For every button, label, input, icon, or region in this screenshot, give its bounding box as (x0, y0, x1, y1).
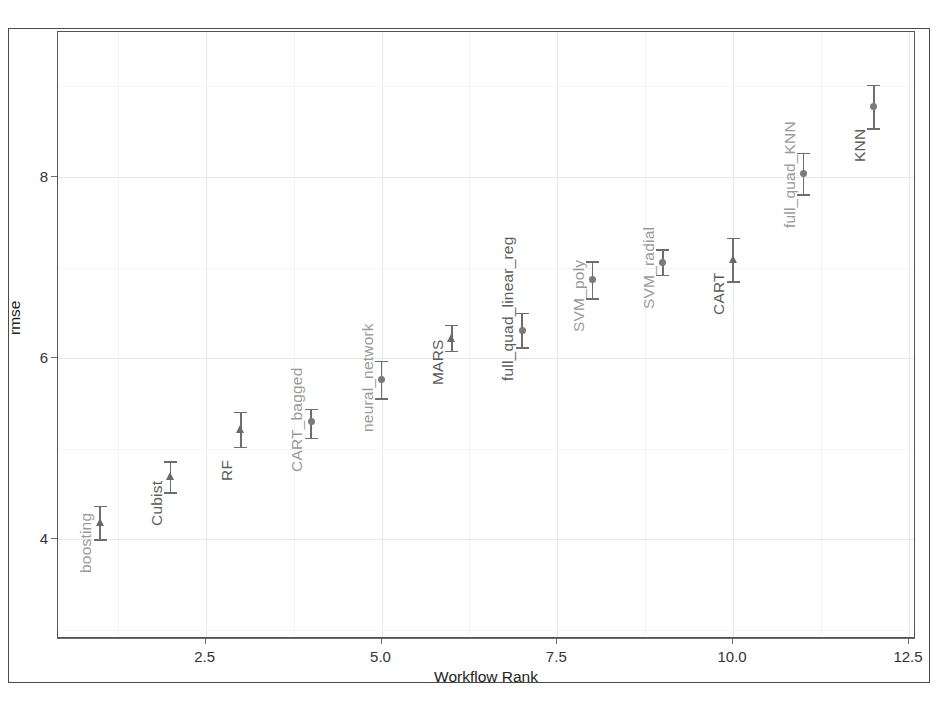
point-label: SVM_poly (570, 260, 588, 332)
y-tick (51, 538, 57, 539)
point-label: SVM_radial (640, 227, 658, 309)
point-label: full_quad_linear_reg (499, 237, 517, 381)
data-point-marker (659, 259, 666, 266)
point-label: full_quad_KNN (781, 121, 799, 228)
data-point-marker (96, 518, 104, 526)
x-tick-label: 5.0 (370, 648, 391, 665)
point-label: RF (218, 460, 236, 481)
gridline-horizontal (58, 358, 914, 359)
x-tick-label: 2.5 (194, 648, 215, 665)
gridline-vertical (733, 32, 734, 637)
point-label: boosting (77, 513, 95, 573)
gridline-vertical-minor (118, 32, 119, 637)
error-bar-cap-upper (727, 238, 740, 240)
point-label: KNN (851, 129, 869, 162)
y-tick-label: 6 (30, 349, 48, 366)
gridline-vertical (909, 32, 910, 637)
gridline-vertical-minor (645, 32, 646, 637)
error-bar-cap-upper (516, 313, 529, 315)
data-point-marker (870, 103, 877, 110)
error-bar-cap-upper (445, 325, 458, 327)
error-bar-cap-lower (94, 539, 107, 541)
x-tick (556, 638, 557, 644)
error-bar-cap-lower (516, 347, 529, 349)
error-bar-cap-upper (94, 506, 107, 508)
error-bar-cap-upper (656, 249, 669, 251)
point-label: Cubist (148, 481, 166, 526)
error-bar-cap-lower (727, 281, 740, 283)
x-tick (381, 638, 382, 644)
y-tick-label: 8 (30, 168, 48, 185)
data-point-marker (447, 334, 455, 342)
point-label: CART_bagged (288, 367, 306, 471)
gridline-vertical-minor (821, 32, 822, 637)
x-axis-line (57, 638, 915, 639)
x-tick (908, 638, 909, 644)
x-tick (732, 638, 733, 644)
gridline-vertical (206, 32, 207, 637)
error-bar-cap-lower (656, 275, 669, 277)
x-tick-label: 10.0 (717, 648, 746, 665)
data-point-marker (589, 276, 596, 283)
gridline-vertical-minor (469, 32, 470, 637)
error-bar-cap-lower (867, 128, 880, 130)
data-point-marker (519, 327, 526, 334)
point-label: MARS (429, 339, 447, 385)
error-bar-cap-upper (305, 409, 318, 411)
gridline-vertical (382, 32, 383, 637)
x-axis-title: Workflow Rank (57, 668, 915, 686)
error-bar-cap-lower (305, 438, 318, 440)
data-point-marker (800, 170, 807, 177)
x-tick-label: 7.5 (546, 648, 567, 665)
x-tick (205, 638, 206, 644)
y-tick (51, 357, 57, 358)
error-bar-cap-lower (445, 351, 458, 353)
data-point-marker (236, 425, 244, 433)
data-point-marker (308, 418, 315, 425)
x-tick-label: 12.5 (893, 648, 922, 665)
gridline-horizontal-minor (58, 449, 914, 450)
error-bar-cap-upper (867, 85, 880, 87)
gridline-horizontal (58, 539, 914, 540)
chart-figure: boostingCubistRFCART_baggedneural_networ… (0, 0, 939, 705)
point-label: CART (710, 272, 728, 315)
data-point-marker (378, 376, 385, 383)
plot-panel: boostingCubistRFCART_baggedneural_networ… (57, 31, 915, 638)
data-point-marker (729, 255, 737, 263)
error-bar-cap-lower (234, 447, 247, 449)
gridline-horizontal-minor (58, 630, 914, 631)
error-bar-cap-upper (164, 461, 177, 463)
point-label: neural_network (359, 323, 377, 432)
gridline-horizontal-minor (58, 86, 914, 87)
gridline-horizontal-minor (58, 268, 914, 269)
data-point-marker (166, 472, 174, 480)
error-bar-cap-upper (234, 412, 247, 414)
y-tick (51, 176, 57, 177)
y-axis-title: rmse (6, 301, 24, 335)
gridline-vertical (557, 32, 558, 637)
gridline-vertical-minor (294, 32, 295, 637)
y-tick-label: 4 (30, 530, 48, 547)
